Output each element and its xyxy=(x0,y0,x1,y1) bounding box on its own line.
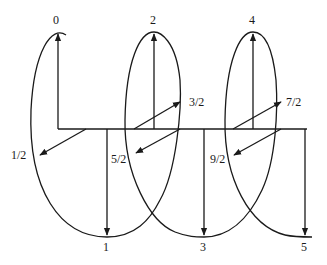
vector-7-2 xyxy=(233,102,281,129)
helix-curve-segment-0-1 xyxy=(31,33,160,237)
label-7-2: 7/2 xyxy=(286,95,301,109)
label-3: 3 xyxy=(200,240,206,254)
label-1-2: 1/2 xyxy=(11,148,26,162)
vector-1-2 xyxy=(40,129,86,155)
label-5: 5 xyxy=(301,240,307,254)
vector-3-2 xyxy=(134,102,180,129)
label-9-2: 9/2 xyxy=(210,152,225,166)
helix-diagram: 0 1/2 1 3/2 2 5/2 3 7/2 4 9/2 5 xyxy=(0,0,327,265)
vector-5-2 xyxy=(136,129,180,153)
helix-curve-segment-2-3 xyxy=(175,32,285,237)
label-1: 1 xyxy=(103,240,109,254)
label-2: 2 xyxy=(150,13,156,27)
label-4: 4 xyxy=(249,13,255,27)
helix-curve-tail-5 xyxy=(285,235,312,237)
label-3-2: 3/2 xyxy=(189,95,204,109)
label-5-2: 5/2 xyxy=(111,152,126,166)
helix-curve-segment-1-2 xyxy=(125,32,180,232)
label-0: 0 xyxy=(53,13,59,27)
